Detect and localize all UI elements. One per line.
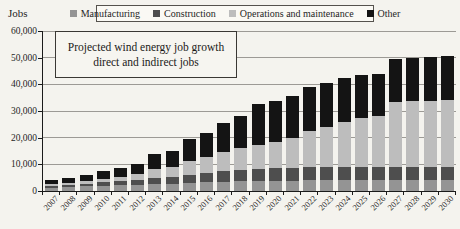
bar-segment-construction xyxy=(200,173,213,182)
x-axis-tick xyxy=(300,192,301,195)
bar-segment-construction xyxy=(114,181,127,185)
legend-item-1: Construction xyxy=(153,8,216,19)
bar-segment-manufacturing xyxy=(62,187,75,191)
bar-segment-construction xyxy=(234,170,247,181)
bar-2015 xyxy=(183,139,196,191)
x-axis-tick xyxy=(421,192,422,195)
annotation-box: Projected wind energy job growth direct … xyxy=(55,31,237,78)
x-axis-tick xyxy=(162,192,163,195)
bar-segment-manufacturing xyxy=(217,182,230,191)
bar-segment-construction xyxy=(80,184,93,187)
bar-segment-operations-and-maintenance xyxy=(148,169,161,178)
legend-item-2: Operations and maintenance xyxy=(229,8,354,19)
bar-segment-operations-and-maintenance xyxy=(166,167,179,177)
bar-segment-operations-and-maintenance xyxy=(252,145,265,169)
bar-segment-other xyxy=(389,59,402,102)
bar-2024 xyxy=(338,78,351,191)
bar-segment-operations-and-maintenance xyxy=(286,138,299,168)
bar-2018 xyxy=(234,116,247,191)
x-axis-tick xyxy=(214,192,215,195)
bar-segment-operations-and-maintenance xyxy=(338,122,351,167)
bar-segment-construction xyxy=(389,167,402,180)
y-axis-label: 0 xyxy=(0,186,37,196)
x-axis-tick xyxy=(249,192,250,195)
bar-segment-other xyxy=(355,75,368,118)
x-axis-tick xyxy=(403,192,404,195)
bar-segment-manufacturing xyxy=(320,180,333,191)
legend-swatch-icon xyxy=(367,10,374,17)
x-axis-tick xyxy=(455,192,456,195)
x-axis-tick xyxy=(76,192,77,195)
x-axis-tick xyxy=(335,192,336,195)
bar-segment-operations-and-maintenance xyxy=(97,179,110,183)
bar-segment-construction xyxy=(406,167,419,180)
bar-segment-other xyxy=(217,123,230,152)
legend-swatch-icon xyxy=(229,10,236,17)
y-axis-tick xyxy=(38,164,42,165)
bar-segment-other xyxy=(183,139,196,161)
bar-segment-other xyxy=(234,116,247,147)
bar-segment-construction xyxy=(62,185,75,187)
bar-segment-construction xyxy=(269,168,282,181)
bar-segment-operations-and-maintenance xyxy=(80,181,93,184)
bar-segment-manufacturing xyxy=(441,180,454,191)
bar-2013 xyxy=(148,154,161,191)
bar-segment-other xyxy=(338,78,351,122)
bar-segment-manufacturing xyxy=(200,182,213,191)
legend-label: Construction xyxy=(164,8,216,19)
y-axis-tick xyxy=(38,138,42,139)
bar-segment-other xyxy=(148,154,161,169)
bar-segment-manufacturing xyxy=(389,180,402,191)
bar-segment-operations-and-maintenance xyxy=(269,142,282,169)
bar-segment-manufacturing xyxy=(97,186,110,191)
x-axis-tick xyxy=(438,192,439,195)
chart-legend: ManufacturingConstructionOperations and … xyxy=(96,5,374,22)
bar-segment-construction xyxy=(355,167,368,180)
bar-segment-operations-and-maintenance xyxy=(234,148,247,170)
bar-segment-manufacturing xyxy=(131,185,144,191)
bar-segment-construction xyxy=(166,177,179,183)
y-axis-title: Jobs xyxy=(8,7,28,19)
bar-segment-operations-and-maintenance xyxy=(114,177,127,182)
bar-2030 xyxy=(441,56,454,191)
bar-segment-construction xyxy=(97,182,110,185)
bar-segment-operations-and-maintenance xyxy=(303,131,316,167)
bar-segment-construction xyxy=(424,167,437,180)
bar-segment-construction xyxy=(441,167,454,180)
bar-2025 xyxy=(355,75,368,191)
bar-2016 xyxy=(200,133,213,191)
bar-segment-other xyxy=(200,133,213,157)
bar-segment-operations-and-maintenance xyxy=(320,127,333,167)
bar-segment-construction xyxy=(45,186,58,188)
bar-segment-operations-and-maintenance xyxy=(131,174,144,180)
bar-segment-manufacturing xyxy=(286,181,299,191)
bar-segment-operations-and-maintenance xyxy=(389,102,402,167)
bar-2021 xyxy=(286,96,299,191)
bar-segment-other xyxy=(252,104,265,145)
bar-segment-other xyxy=(406,58,419,101)
x-axis-tick xyxy=(317,192,318,195)
bar-2017 xyxy=(217,123,230,191)
bar-segment-manufacturing xyxy=(269,181,282,191)
bar-segment-other xyxy=(269,101,282,142)
x-axis-tick xyxy=(128,192,129,195)
bar-segment-construction xyxy=(252,169,265,181)
legend-item-0: Manufacturing xyxy=(70,8,140,19)
bar-segment-other xyxy=(320,83,333,127)
bar-segment-other xyxy=(114,168,127,177)
bar-2023 xyxy=(320,83,333,191)
bar-segment-construction xyxy=(217,171,230,181)
bar-segment-other xyxy=(131,164,144,174)
bar-segment-manufacturing xyxy=(338,180,351,191)
bar-2022 xyxy=(303,87,316,191)
x-axis-tick xyxy=(231,192,232,195)
y-axis-label: 60,000 xyxy=(0,26,37,36)
bar-2007 xyxy=(45,180,58,191)
y-axis-label: 30,000 xyxy=(0,106,37,116)
bar-segment-operations-and-maintenance xyxy=(355,118,368,167)
x-axis-tick xyxy=(59,192,60,195)
x-axis-tick xyxy=(266,192,267,195)
bar-segment-manufacturing xyxy=(166,184,179,191)
legend-label: Manufacturing xyxy=(81,8,140,19)
bar-segment-manufacturing xyxy=(234,181,247,191)
